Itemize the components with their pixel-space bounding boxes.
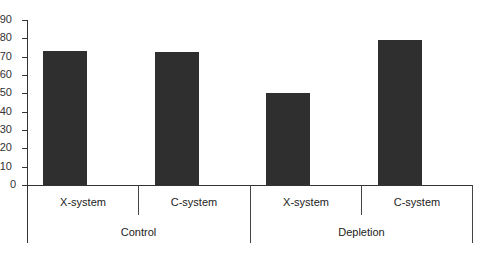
y-tick [22, 148, 27, 149]
y-tick-label: 10 [0, 160, 12, 172]
bar-control-x-system [43, 51, 87, 185]
y-tick-label: 50 [0, 86, 12, 98]
bar-depletion-c-system [378, 40, 422, 185]
category-label-depletion-c: C-system [361, 196, 473, 208]
y-tick [22, 20, 27, 21]
y-tick-label: 40 [0, 105, 12, 117]
y-tick-label: 80 [0, 31, 12, 43]
y-tick-label: 90 [0, 13, 12, 25]
category-label-control-x: X-system [27, 196, 139, 208]
y-tick [22, 57, 27, 58]
group-label-control: Control [27, 226, 250, 238]
y-tick [22, 130, 27, 131]
y-tick [22, 185, 27, 186]
y-tick [22, 75, 27, 76]
category-label-depletion-x: X-system [250, 196, 362, 208]
y-tick [22, 167, 27, 168]
y-tick-label: 0 [2, 178, 16, 190]
y-tick-label: 60 [0, 68, 12, 80]
bar-depletion-x-system [266, 93, 310, 185]
y-tick-label: 70 [0, 50, 12, 62]
category-label-control-c: C-system [138, 196, 250, 208]
bar-chart: 0102030405060708090 X-system C-system X-… [0, 0, 488, 257]
y-axis [27, 20, 28, 243]
group-label-depletion: Depletion [250, 226, 473, 238]
y-tick-label: 20 [0, 141, 12, 153]
y-tick [22, 112, 27, 113]
y-tick [22, 93, 27, 94]
bar-control-c-system [155, 52, 199, 185]
y-tick-label: 30 [0, 123, 12, 135]
y-tick [22, 38, 27, 39]
